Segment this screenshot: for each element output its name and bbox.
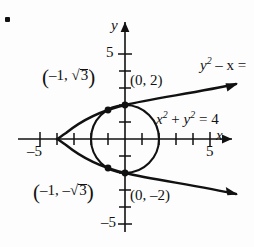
parabola-eq-rest: – x =: [212, 57, 247, 73]
point-label-bottom-intercept: (0, –2): [130, 188, 170, 203]
point-marker-lower-left: [105, 165, 112, 172]
point-marker-upper-left: [105, 107, 112, 114]
parabola-lower-arrowhead: [226, 187, 238, 195]
x-axis-arrowhead: [222, 135, 232, 144]
y-axis-arrowhead: [121, 22, 130, 32]
paren-open: (: [42, 65, 49, 89]
radical-sign: √: [72, 67, 80, 83]
sqrt-group-upper: √3: [72, 68, 89, 83]
radical-sign: √: [70, 182, 78, 198]
sqrt-overbar: [78, 184, 87, 185]
y-tick-label-neg5: –5: [101, 215, 116, 230]
parabola-equation-label: y2 – x =: [200, 56, 246, 73]
x-tick-label-neg5: –5: [27, 144, 42, 159]
circle-eq-x: x: [156, 111, 163, 127]
point-marker-bottom-intercept: [122, 170, 129, 177]
point-label-upper-left: (–1, √3): [42, 68, 95, 83]
x-axis-label: x: [216, 128, 223, 143]
y-axis-label: y: [111, 18, 118, 33]
parabola-upper-arrowhead: [226, 83, 239, 91]
sqrt-group-lower: √3: [70, 183, 87, 198]
sqrt-overbar: [80, 69, 89, 70]
point-label-top-intercept: (0, 2): [130, 73, 163, 88]
paren-open: (: [33, 180, 40, 204]
point-lower-left-x: –1, –: [40, 182, 70, 198]
circle-eq-plus: +: [168, 111, 184, 127]
graph-figure: y x 5 –5 –5 5 y2 – x = x2 + y2 = 4 (–1, …: [0, 0, 254, 247]
x-tick-label-5: 5: [206, 144, 214, 159]
paren-close: ): [87, 180, 94, 204]
circle-equation-label: x2 + y2 = 4: [156, 110, 219, 127]
y-tick-label-5: 5: [106, 45, 114, 60]
parabola-eq-var: y: [200, 57, 207, 73]
paren-close: ): [88, 65, 95, 89]
point-marker-top-intercept: [122, 102, 129, 109]
circle-eq-tail: = 4: [195, 111, 218, 127]
point-upper-left-x: –1,: [49, 67, 72, 83]
point-label-lower-left: (–1, –√3): [33, 183, 94, 198]
